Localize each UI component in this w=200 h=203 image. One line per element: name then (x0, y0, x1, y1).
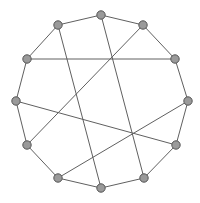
graph-node (171, 55, 179, 63)
graph-node (23, 55, 31, 63)
graph-node (140, 174, 148, 182)
figure-background (0, 0, 200, 203)
graph-node (23, 141, 31, 149)
graph-node (54, 21, 62, 29)
graph-node (12, 97, 20, 105)
graph-node (97, 11, 105, 19)
graph-node (184, 97, 192, 105)
graph-node (139, 21, 147, 29)
graph-node (172, 141, 180, 149)
graph-node (97, 184, 105, 192)
circular-graph-figure (0, 0, 200, 203)
graph-node (54, 174, 62, 182)
